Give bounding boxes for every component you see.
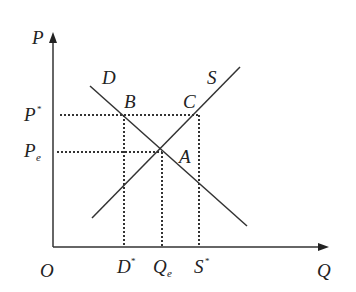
axes (49, 32, 329, 251)
origin-label: O (40, 260, 54, 281)
p-star-label: P * (23, 104, 42, 125)
point-c-label: C (183, 91, 196, 112)
svg-text:*: * (37, 104, 42, 114)
supply-demand-diagram: P Q O D S A B C P * P e D * Q e S * (0, 0, 356, 292)
svg-text:D: D (116, 256, 131, 277)
svg-text:*: * (205, 256, 210, 266)
supply-label: S (207, 67, 217, 88)
svg-text:P: P (23, 104, 36, 125)
point-b-label: B (124, 91, 136, 112)
y-axis-label: P (31, 27, 44, 48)
svg-text:e: e (36, 151, 41, 163)
demand-label: D (101, 67, 116, 88)
p-e-label: P e (23, 140, 41, 163)
svg-text:Q: Q (153, 256, 167, 277)
svg-text:P: P (23, 140, 36, 161)
supply-curve (92, 67, 240, 218)
d-star-label: D * (116, 256, 136, 277)
svg-text:S: S (194, 256, 204, 277)
demand-curve (90, 86, 247, 226)
svg-text:*: * (131, 256, 136, 266)
svg-text:e: e (167, 267, 172, 279)
s-star-label: S * (194, 256, 210, 277)
x-axis-label: Q (317, 260, 331, 281)
y-axis-arrow-icon (49, 32, 57, 43)
q-e-label: Q e (153, 256, 172, 279)
x-axis-arrow-icon (318, 243, 329, 251)
point-a-label: A (177, 146, 191, 167)
